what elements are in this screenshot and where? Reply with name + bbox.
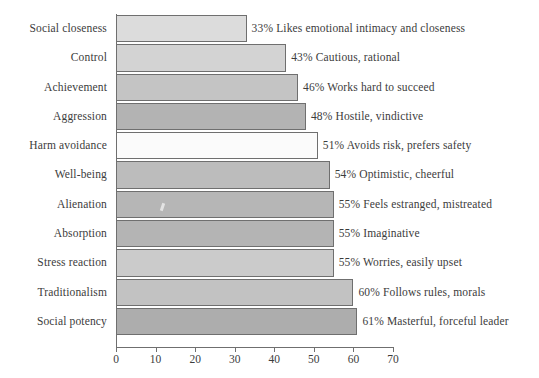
bar-row: Stress reaction55% Worries, easily upset	[0, 248, 539, 277]
bar	[116, 220, 334, 247]
x-axis-line	[116, 347, 393, 348]
bar-row: Harm avoidance51% Avoids risk, prefers s…	[0, 131, 539, 160]
bar-row: Control43% Cautious, rational	[0, 43, 539, 72]
bar	[116, 249, 334, 276]
category-label: Achievement	[0, 73, 107, 102]
bar-row: Alienation55% Feels estranged, mistreate…	[0, 190, 539, 219]
x-tick	[116, 347, 117, 352]
bar	[116, 308, 357, 335]
bar-row: Traditionalism60% Follows rules, morals	[0, 278, 539, 307]
bar-value-label: 55% Imaginative	[334, 219, 420, 248]
bar-row: Aggression48% Hostile, vindictive	[0, 102, 539, 131]
bar	[116, 74, 298, 101]
bar	[116, 44, 286, 71]
bar-track: 55% Imaginative	[116, 219, 539, 248]
bar-track: 51% Avoids risk, prefers safety	[116, 131, 539, 160]
bar-value-label: 51% Avoids risk, prefers safety	[318, 131, 471, 160]
bar-value-label: 55% Feels estranged, mistreated	[334, 190, 492, 219]
bar-value-label: 33% Likes emotional intimacy and closene…	[247, 14, 466, 43]
bar	[116, 15, 247, 42]
x-tick-label: 40	[269, 353, 281, 365]
bar-track: 55% Worries, easily upset	[116, 248, 539, 277]
bar-row: Well-being54% Optimistic, cheerful	[0, 160, 539, 189]
category-label: Well-being	[0, 160, 107, 189]
bar	[116, 103, 306, 130]
category-label: Social potency	[0, 307, 107, 336]
bar-chart: Social closeness33% Likes emotional inti…	[0, 0, 539, 378]
x-tick	[235, 347, 236, 352]
bar-track: 61% Masterful, forceful leader	[116, 307, 539, 336]
bar-row: Achievement46% Works hard to succeed	[0, 73, 539, 102]
bar-value-label: 43% Cautious, rational	[286, 43, 400, 72]
bar-value-label: 54% Optimistic, cheerful	[330, 160, 455, 189]
category-label: Social closeness	[0, 14, 107, 43]
bar-value-label: 60% Follows rules, morals	[353, 278, 485, 307]
x-tick-label: 0	[113, 353, 119, 365]
bar-track: 55% Feels estranged, mistreated	[116, 190, 539, 219]
bar-row: Social closeness33% Likes emotional inti…	[0, 14, 539, 43]
bar	[116, 132, 318, 159]
bar-track: 60% Follows rules, morals	[116, 278, 539, 307]
category-label: Alienation	[0, 190, 107, 219]
bar-row: Social potency61% Masterful, forceful le…	[0, 307, 539, 336]
y-axis-line	[116, 14, 117, 347]
x-tick-label: 60	[348, 353, 360, 365]
x-tick	[156, 347, 157, 352]
category-label: Absorption	[0, 219, 107, 248]
x-tick	[353, 347, 354, 352]
bar-track: 46% Works hard to succeed	[116, 73, 539, 102]
x-tick-label: 10	[150, 353, 162, 365]
x-tick	[195, 347, 196, 352]
bar	[116, 161, 330, 188]
category-label: Traditionalism	[0, 278, 107, 307]
x-tick-label: 70	[387, 353, 399, 365]
x-tick-label: 20	[189, 353, 201, 365]
x-tick	[274, 347, 275, 352]
category-label: Harm avoidance	[0, 131, 107, 160]
x-tick	[393, 347, 394, 352]
category-label: Aggression	[0, 102, 107, 131]
bar-row: Absorption55% Imaginative	[0, 219, 539, 248]
x-tick-label: 50	[308, 353, 320, 365]
bar-value-label: 46% Works hard to succeed	[298, 73, 435, 102]
bar	[116, 191, 334, 218]
bar-track: 48% Hostile, vindictive	[116, 102, 539, 131]
bar-value-label: 48% Hostile, vindictive	[306, 102, 423, 131]
x-tick	[314, 347, 315, 352]
x-tick-label: 30	[229, 353, 241, 365]
bar-rows: Social closeness33% Likes emotional inti…	[0, 14, 539, 336]
bar	[116, 279, 353, 306]
bar-value-label: 55% Worries, easily upset	[334, 248, 462, 277]
category-label: Control	[0, 43, 107, 72]
category-label: Stress reaction	[0, 248, 107, 277]
bar-track: 54% Optimistic, cheerful	[116, 160, 539, 189]
bar-track: 43% Cautious, rational	[116, 43, 539, 72]
bar-track: 33% Likes emotional intimacy and closene…	[116, 14, 539, 43]
bar-value-label: 61% Masterful, forceful leader	[357, 307, 508, 336]
